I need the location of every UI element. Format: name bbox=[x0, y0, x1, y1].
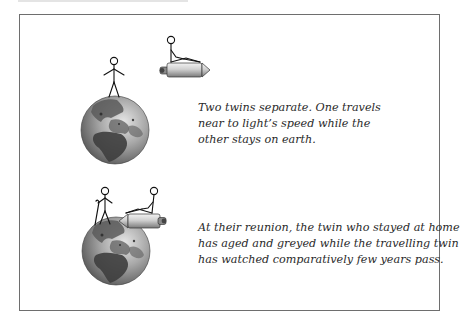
earth-globe-icon bbox=[81, 96, 149, 164]
caption-reunion: At their reunion, the twin who stayed at… bbox=[198, 220, 460, 268]
panel-separation bbox=[81, 36, 210, 164]
travelling-twin-icon bbox=[167, 36, 200, 62]
rocket-icon bbox=[119, 214, 166, 228]
rocket-icon bbox=[160, 63, 210, 77]
standing-twin-icon bbox=[104, 57, 124, 97]
caption-line: At their reunion, the twin who stayed at… bbox=[198, 220, 460, 236]
caption-line: has aged and greyed while the travelling… bbox=[198, 236, 460, 252]
caption-line: Two twins separate. One travels bbox=[198, 100, 381, 116]
caption-line: other stays on earth. bbox=[198, 132, 381, 148]
caption-line: near to light’s speed while the bbox=[198, 116, 381, 132]
caption-separation: Two twins separate. One travels near to … bbox=[198, 100, 381, 148]
panel-reunion bbox=[82, 187, 166, 285]
travelling-twin-icon bbox=[126, 187, 158, 213]
walking-cane-icon bbox=[95, 200, 99, 225]
caption-line: has watched comparatively few years pass… bbox=[198, 252, 460, 268]
